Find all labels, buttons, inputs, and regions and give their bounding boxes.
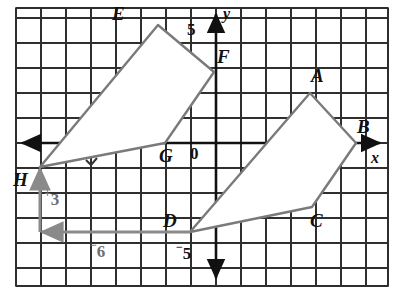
origin-label: 0 <box>190 145 199 162</box>
vertex-label-a: A <box>311 66 324 85</box>
translation-vertical-label: +3 <box>44 188 59 208</box>
y-axis-label: y <box>223 6 230 22</box>
vertex-label-g: G <box>159 146 173 165</box>
vertex-label-c: C <box>310 211 323 230</box>
negative-sign-glyph: − <box>90 238 97 252</box>
positive-sign-glyph: + <box>44 186 51 200</box>
coordinate-grid-figure: A B C D E F G H y x 0 5 −5 −6 +3 <box>0 0 400 294</box>
x-axis-label: x <box>371 150 379 166</box>
vertex-label-f: F <box>217 47 230 66</box>
vertex-label-d: D <box>163 211 177 230</box>
vertex-label-h: H <box>13 170 28 189</box>
vertex-label-b: B <box>357 117 370 136</box>
vertex-label-e: E <box>112 4 125 23</box>
y-tick-label-positive-5: 5 <box>187 21 196 38</box>
negative-sign-glyph: − <box>176 240 183 254</box>
translation-horizontal-label: −6 <box>90 240 105 260</box>
figure-canvas <box>0 0 400 294</box>
y-tick-label-negative-5: −5 <box>176 242 191 262</box>
